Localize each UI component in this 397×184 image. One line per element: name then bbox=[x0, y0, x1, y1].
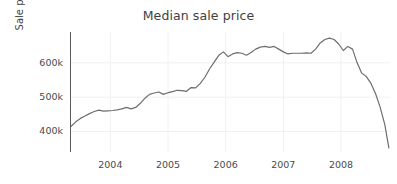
x-tick-label: 2008 bbox=[316, 159, 366, 170]
x-tick-label: 2006 bbox=[201, 159, 251, 170]
y-tick-label: 400k bbox=[23, 125, 63, 136]
x-tick-label: 2005 bbox=[143, 159, 193, 170]
chart-title: Median sale price bbox=[0, 8, 397, 23]
y-axis-label: Sale price (USD) bbox=[11, 0, 29, 50]
median-sale-price-chart: Median sale price Sale price (USD) 400k5… bbox=[0, 0, 397, 184]
x-tick-label: 2004 bbox=[85, 159, 135, 170]
y-tick-label: 600k bbox=[23, 57, 63, 68]
plot-area bbox=[70, 32, 390, 152]
y-tick-label: 500k bbox=[23, 91, 63, 102]
plot-svg bbox=[70, 32, 390, 152]
tick-marks bbox=[70, 32, 390, 152]
gridlines bbox=[70, 32, 390, 152]
x-tick-label: 2007 bbox=[258, 159, 308, 170]
